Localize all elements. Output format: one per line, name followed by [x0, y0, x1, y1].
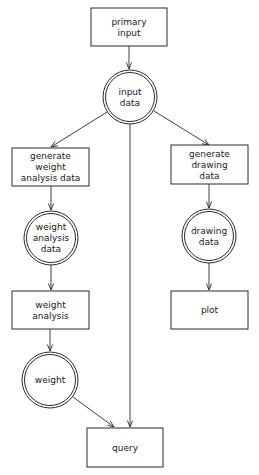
- edge-drawing-data-to-plot: [206, 263, 211, 290]
- node-weight-analysis: weightanalysis: [12, 291, 89, 329]
- node-label: weight: [36, 222, 67, 232]
- node-label: data: [199, 237, 219, 247]
- node-label: input: [117, 28, 141, 38]
- edge-weight-to-query: [73, 397, 114, 427]
- edge-generate-weight-analysis-data-to-weight-analysis-data: [48, 186, 53, 210]
- node-label: analysis data: [21, 173, 81, 183]
- edge-primary-input-to-input-data: [126, 46, 131, 69]
- node-label: data: [120, 98, 140, 108]
- node-label: weight: [35, 375, 66, 385]
- node-label: drawing: [191, 160, 227, 170]
- edge-generate-drawing-data-to-drawing-data: [206, 184, 211, 208]
- node-label: generate: [30, 151, 71, 161]
- edge-input-data-to-query: [127, 124, 132, 427]
- node-weight-analysis-data: weightanalysisdata: [24, 211, 78, 265]
- node-plot: plot: [171, 291, 248, 329]
- node-primary-input: primaryinput: [91, 8, 167, 46]
- edge-weight-analysis-data-to-weight-analysis: [48, 265, 53, 290]
- node-input-data: inputdata: [103, 70, 157, 124]
- node-label: input: [118, 87, 142, 97]
- edge-line: [51, 112, 107, 147]
- node-label: data: [41, 244, 61, 254]
- arrowhead-icon: [51, 141, 58, 147]
- edge-input-data-to-generate-drawing-data: [154, 111, 209, 145]
- edge-input-data-to-generate-weight-analysis-data: [51, 112, 107, 147]
- node-drawing-data: drawingdata: [182, 209, 236, 263]
- node-label: query: [112, 443, 139, 453]
- node-label: weight: [35, 162, 66, 172]
- node-label: primary: [111, 17, 147, 27]
- node-label: generate: [189, 149, 230, 159]
- node-label: plot: [201, 305, 219, 315]
- node-generate-drawing-data: generatedrawingdata: [171, 145, 248, 184]
- edge-line: [73, 397, 114, 427]
- edge-line: [154, 111, 209, 145]
- node-label: data: [199, 171, 219, 181]
- node-weight: weight: [22, 352, 78, 408]
- node-label: drawing: [191, 226, 227, 236]
- flow-diagram: primaryinputinputdatagenerateweightanaly…: [0, 0, 259, 475]
- node-label: weight: [35, 300, 66, 310]
- node-label: analysis: [33, 233, 70, 243]
- node-generate-weight-analysis-data: generateweightanalysis data: [12, 148, 89, 186]
- edge-weight-analysis-to-weight: [47, 329, 52, 351]
- node-label: analysis: [32, 311, 69, 321]
- arrowhead-icon: [202, 139, 209, 145]
- node-query: query: [87, 428, 163, 467]
